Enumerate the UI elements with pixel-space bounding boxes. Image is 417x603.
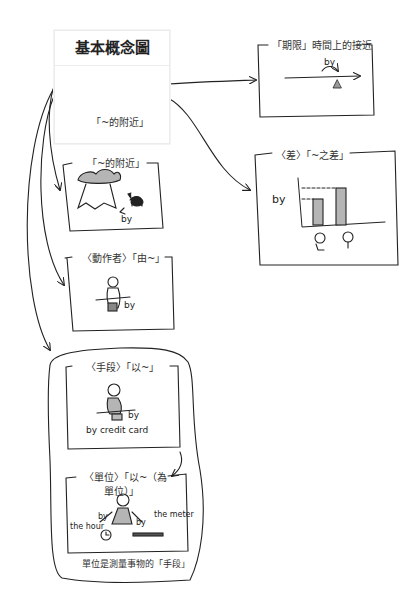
arrow-to-difference [168, 98, 250, 190]
panel-period-title: 「期限」時間上的接近 [272, 37, 372, 52]
core-concept-card: 基本概念圖 「~的附近」 [54, 30, 170, 144]
means-by: by [128, 410, 139, 420]
unit-by-meter: by [136, 518, 146, 527]
vicinity-by: by [121, 214, 132, 224]
panel-unit-title-line2: 單位）」 [104, 483, 139, 498]
arrow-to-period [168, 80, 256, 84]
panel-unit-title-line1: 〈單位〉「以~（為 [84, 469, 167, 484]
unit-the-hour: the hour [70, 522, 104, 531]
core-title: 基本概念圖 [55, 31, 169, 66]
agent-by: by [124, 300, 135, 310]
unit-by-hour: by [98, 512, 108, 521]
arrow-to-means-group [27, 88, 54, 350]
period-by: by [324, 57, 335, 67]
core-label: 「~的附近」 [91, 114, 149, 129]
panel-vicinity-title: 「~的附近」 [87, 155, 145, 170]
group-caption: 單位是測量事物的「手段」 [82, 557, 190, 570]
panel-agent-title: 〈動作者〉「由~」 [82, 250, 165, 265]
panel-means-title: 〈手段〉「以~」 [86, 359, 159, 374]
unit-the-meter: the meter [154, 510, 194, 519]
panel-difference-title: 〈差〉「~之差」 [276, 147, 349, 162]
difference-by: by [272, 193, 286, 206]
means-by-credit-card: by credit card [86, 425, 148, 435]
